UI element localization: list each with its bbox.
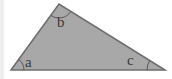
angle-label-c: c — [127, 53, 134, 68]
angle-label-b: b — [57, 15, 65, 30]
triangle-figure: a b c — [0, 0, 172, 79]
angle-label-a: a — [25, 55, 32, 70]
triangle-shape — [11, 4, 165, 70]
